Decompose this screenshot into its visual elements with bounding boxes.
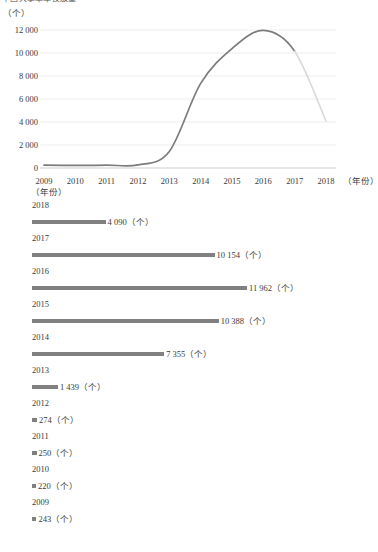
bar-row-year-label: 2010 (32, 464, 49, 474)
bar-value-label: 4 090（个） (106, 217, 154, 227)
y-tick-label: 4 000 (4, 118, 38, 127)
bar-fill (32, 286, 247, 290)
bar-fill (32, 220, 106, 224)
y-tick-label: 12 000 (4, 26, 38, 35)
bar-chart-row: 201710 154（个） (0, 233, 372, 265)
bar-row-track[interactable]: 274（个） (32, 410, 79, 420)
bar-chart-row: 20184 090（个） (0, 200, 372, 232)
line-series-faded (295, 51, 326, 121)
y-tick-label: 8 000 (4, 72, 38, 81)
clipped-page-heading: 中国共享单车投放量 (0, 0, 372, 3)
bar-row-track[interactable]: 10 388（个） (32, 311, 271, 321)
bar-value-label: 11 962（个） (247, 283, 299, 293)
bar-chart-row: 201611 962（个） (0, 266, 372, 298)
bar-chart: （年份） 20184 090（个）201710 154（个）201611 962… (0, 186, 372, 552)
bar-row-track[interactable]: 1 439（个） (32, 377, 106, 387)
y-tick-label: 10 000 (4, 49, 38, 58)
line-chart-svg (40, 8, 336, 190)
line-chart: （个） 02 0004 0006 0008 00010 00012 000 20… (0, 8, 372, 190)
bar-row-track[interactable]: 7 355（个） (32, 344, 212, 354)
bar-chart-row: 201510 388（个） (0, 299, 372, 331)
bar-value-label: 10 154（个） (215, 250, 267, 260)
bar-value-label: 274（个） (37, 415, 79, 425)
bar-row-track[interactable]: 4 090（个） (32, 212, 154, 222)
clipped-page-heading-text: 中国共享单车投放量 (0, 0, 372, 3)
bar-row-year-label: 2015 (32, 299, 49, 309)
bar-chart-row: 2011250（个） (0, 431, 372, 463)
line-chart-plot-area (40, 8, 336, 190)
bar-value-label: 1 439（个） (58, 382, 106, 392)
bar-row-year-label: 2018 (32, 200, 49, 210)
bar-row-track[interactable]: 11 962（个） (32, 278, 299, 288)
bar-row-track[interactable]: 243（个） (32, 509, 78, 519)
y-tick-label: 0 (4, 164, 38, 173)
bar-chart-row: 20147 355（个） (0, 332, 372, 364)
bar-value-label: 250（个） (37, 448, 79, 458)
bar-value-label: 10 388（个） (219, 316, 271, 326)
bar-row-year-label: 2011 (32, 431, 49, 441)
line-series-solid (44, 30, 295, 165)
bar-row-year-label: 2012 (32, 398, 49, 408)
bar-value-label: 243（个） (36, 514, 78, 524)
bar-chart-unit-label: （年份） (31, 186, 67, 198)
bar-row-track[interactable]: 10 154（个） (32, 245, 267, 255)
bar-fill (32, 319, 219, 323)
bar-fill (32, 253, 215, 257)
bar-row-year-label: 2013 (32, 365, 49, 375)
bar-value-label: 220（个） (36, 481, 78, 491)
bar-value-label: 7 355（个） (164, 349, 212, 359)
y-tick-label: 2 000 (4, 141, 38, 150)
bar-chart-row: 2010220（个） (0, 464, 372, 496)
bar-row-year-label: 2009 (32, 497, 49, 507)
bar-row-track[interactable]: 250（个） (32, 443, 78, 453)
bar-row-year-label: 2014 (32, 332, 49, 342)
bar-chart-row: 2009243（个） (0, 497, 372, 529)
line-chart-y-axis: 02 0004 0006 0008 00010 00012 000 (0, 8, 38, 190)
y-tick-label: 6 000 (4, 95, 38, 104)
bar-chart-row: 2012274（个） (0, 398, 372, 430)
bar-fill (32, 385, 58, 389)
bar-row-year-label: 2017 (32, 233, 49, 243)
bar-chart-row: 20131 439（个） (0, 365, 372, 397)
bar-fill (32, 352, 164, 356)
bar-row-year-label: 2016 (32, 266, 49, 276)
bar-row-track[interactable]: 220（个） (32, 476, 78, 486)
